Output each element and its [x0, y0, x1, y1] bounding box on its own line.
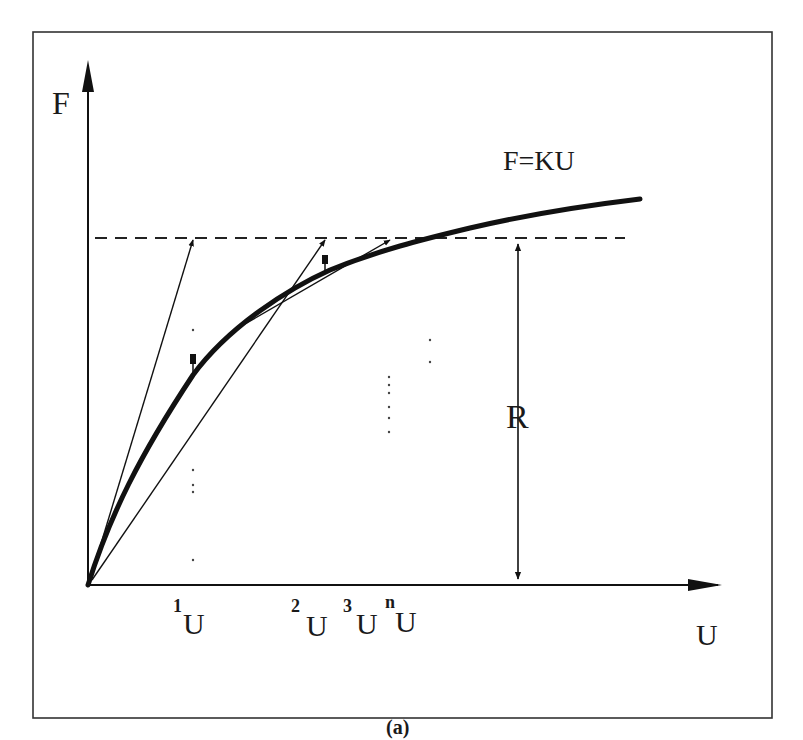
secant-3 [245, 240, 390, 324]
secant-lines [90, 240, 390, 580]
tick-label-3: U [356, 607, 378, 640]
tick-sup-3: 3 [343, 596, 352, 616]
figure-canvas: F F=KU R U 1 U 2 U 3 U n U (a) [0, 0, 803, 740]
resistance-label: R [506, 398, 529, 435]
x-axis-arrow-icon [688, 579, 722, 591]
tick-labels: 1 U 2 U 3 U n U [173, 592, 417, 642]
figure-caption: (a) [386, 716, 409, 739]
tick-label-2: U [306, 609, 328, 642]
y-axis-label: F [52, 85, 70, 121]
tick-label-1: U [183, 607, 205, 640]
tick-sup-n: n [385, 592, 395, 612]
dotted-guides [192, 329, 431, 561]
tick-label-n: U [395, 605, 417, 638]
x-axis-label: U [696, 618, 718, 651]
marker-2 [322, 255, 328, 264]
tick-sup-2: 2 [291, 596, 300, 616]
equation-label: F=KU [503, 145, 575, 176]
marker-1 [190, 354, 196, 364]
force-displacement-curve [88, 199, 640, 585]
y-axis-arrow-icon [82, 60, 94, 92]
secant-1 [90, 240, 193, 580]
tick-sup-1: 1 [173, 596, 182, 616]
